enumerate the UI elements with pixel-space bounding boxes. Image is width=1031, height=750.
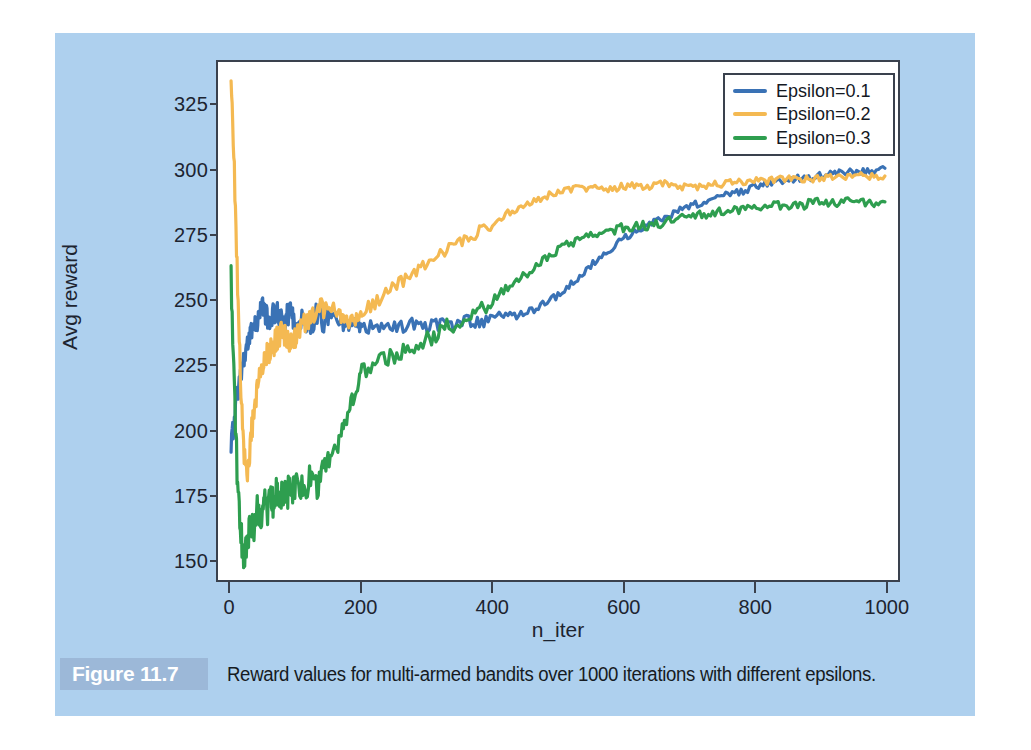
x-tick-mark [754,582,756,593]
x-tick-mark [228,582,230,593]
y-tick-label: 225 [136,354,208,377]
legend-item-label: Epsilon=0.1 [776,82,871,100]
x-tick-mark [491,582,493,593]
figure-caption-bar: Figure 11.7 Reward values for multi-arme… [55,655,975,699]
figure-caption-text: Reward values for multi-armed bandits ov… [227,659,876,689]
y-axis-label: Avg reward [58,187,82,407]
figure-number-badge: Figure 11.7 [60,658,208,690]
x-tick-label: 0 [224,596,235,619]
legend-item-label: Epsilon=0.2 [776,105,871,123]
y-tick-label: 275 [136,223,208,246]
legend-item-3[interactable]: Epsilon=0.3 [733,127,885,149]
x-tick-label: 600 [607,596,640,619]
y-tick-label: 300 [136,158,208,181]
figure-container: 150175200225250275300325 Avg reward 0200… [0,0,1031,750]
y-tick-label: 175 [136,484,208,507]
x-tick-label: 800 [739,596,772,619]
y-tick-label: 325 [136,93,208,116]
y-tick-label: 250 [136,289,208,312]
legend-color-swatch [733,136,767,140]
x-tick-mark [360,582,362,593]
legend-item-2[interactable]: Epsilon=0.2 [733,103,885,125]
x-tick-mark [886,582,888,593]
legend-color-swatch [733,112,767,116]
series-line-3 [231,198,885,568]
x-tick-label: 1000 [865,596,910,619]
legend-item-1[interactable]: Epsilon=0.1 [733,80,885,102]
legend-item-label: Epsilon=0.3 [776,129,871,147]
y-tick-label: 150 [136,550,208,573]
y-tick-label: 200 [136,419,208,442]
y-axis: 150175200225250275300325 [124,60,208,582]
legend-color-swatch [733,89,767,93]
x-tick-mark [623,582,625,593]
x-axis-label: n_iter [216,618,900,642]
figure-number-label: Figure 11.7 [72,662,178,686]
x-tick-label: 200 [344,596,377,619]
chart-legend: Epsilon=0.1Epsilon=0.2Epsilon=0.3 [723,73,895,156]
x-tick-label: 400 [476,596,509,619]
